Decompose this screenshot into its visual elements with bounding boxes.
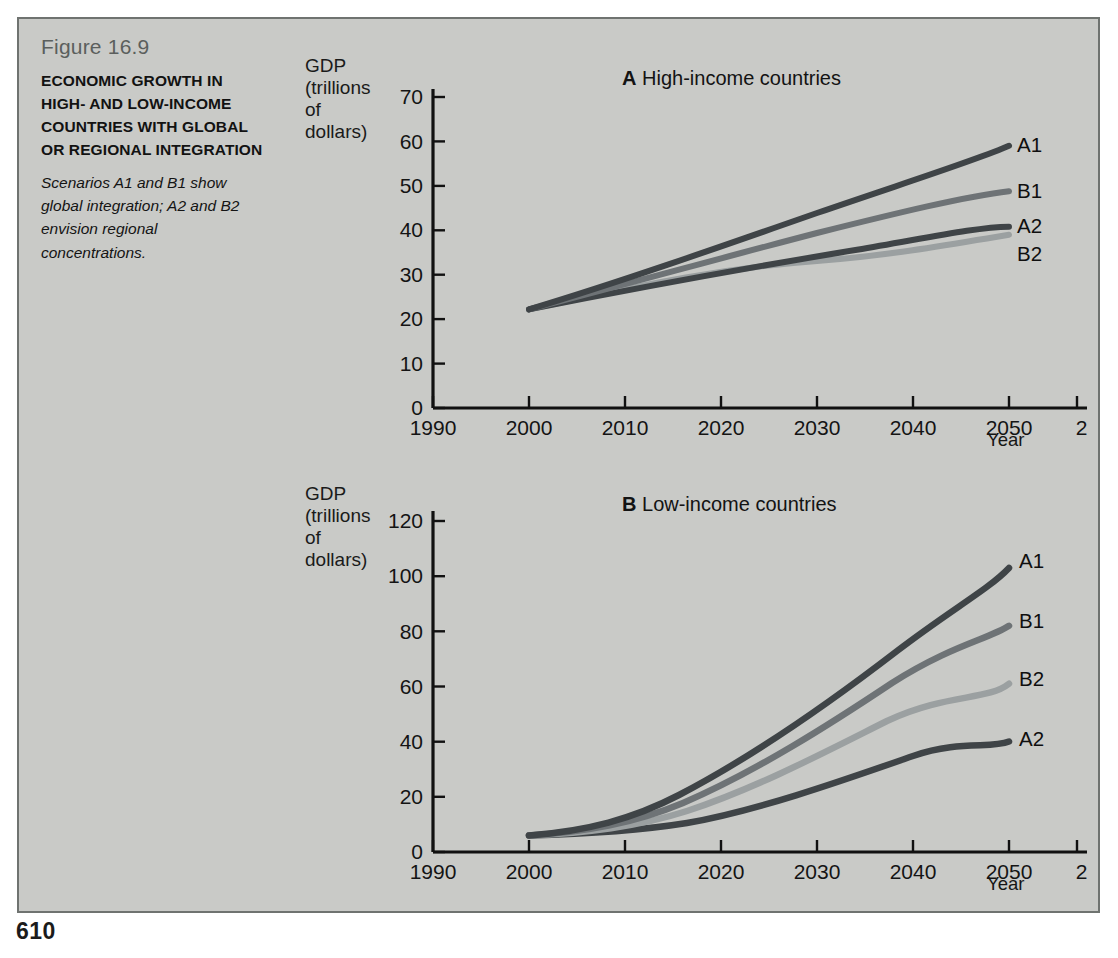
svg-text:40: 40: [400, 730, 423, 753]
series-line-A1-a: [529, 146, 1009, 310]
chart-panel-a: GDP (trillions of dollars) A High-income…: [287, 37, 1087, 457]
y-ticks-b: [433, 521, 445, 852]
x-axis-label-b: Year: [987, 873, 1024, 895]
svg-text:70: 70: [400, 85, 423, 108]
svg-text:20: 20: [400, 307, 423, 330]
series-label-b2-panel-a: B2: [1017, 242, 1042, 266]
series-label-a1-panel-b: A1: [1019, 549, 1044, 573]
y-axis-label-b: GDP (trillions of dollars): [305, 483, 370, 571]
chart-title-a: A High-income countries: [622, 67, 841, 90]
svg-text:2020: 2020: [698, 416, 745, 439]
panel-title-text-a: High-income countries: [642, 67, 841, 89]
svg-text:1990: 1990: [410, 416, 457, 439]
axis-lines-b: [433, 511, 1087, 852]
svg-text:2000: 2000: [506, 416, 553, 439]
figure-title: ECONOMIC GROWTH IN HIGH- AND LOW-INCOME …: [41, 70, 266, 162]
figure-number: Figure 16.9: [41, 35, 266, 59]
x-tick-labels-a: 1990 2000 2010 2020 2030 2040 2050 2060: [410, 416, 1087, 439]
svg-text:2060: 2060: [1076, 416, 1087, 439]
page-number: 610: [16, 918, 56, 945]
svg-text:100: 100: [388, 564, 423, 587]
x-tick-labels-b: 1990 2000 2010 2020 2030 2040 2050 2060: [410, 860, 1087, 883]
panel-title-text-b: Low-income countries: [642, 493, 837, 515]
series-label-a2-panel-a: A2: [1017, 214, 1042, 238]
x-ticks-b: [433, 840, 1077, 852]
svg-text:120: 120: [388, 509, 423, 532]
svg-text:20: 20: [400, 785, 423, 808]
chart-panel-b: GDP (trillions of dollars) B Low-income …: [287, 461, 1087, 901]
svg-text:2060: 2060: [1076, 860, 1087, 883]
y-ticks-a: [433, 97, 445, 408]
svg-text:2010: 2010: [602, 860, 649, 883]
svg-text:1990: 1990: [410, 860, 457, 883]
svg-text:80: 80: [400, 620, 423, 643]
svg-text:2040: 2040: [890, 860, 937, 883]
y-tick-labels-a: 0 10 20 30 40 50 60 70: [400, 85, 423, 419]
svg-text:2020: 2020: [698, 860, 745, 883]
x-axis-label-a: Year: [987, 429, 1024, 451]
series-label-b1-panel-b: B1: [1019, 609, 1044, 633]
y-axis-label-a: GDP (trillions of dollars): [305, 55, 370, 143]
svg-text:10: 10: [400, 352, 423, 375]
chart-svg-a: 0 10 20 30 40 50 60 70 1990 2000 2010 20…: [287, 37, 1087, 457]
svg-text:2040: 2040: [890, 416, 937, 439]
figure-description: Scenarios A1 and B1 show global integrat…: [41, 171, 266, 264]
panel-letter-a: A: [622, 67, 636, 89]
series-label-a1-panel-a: A1: [1017, 133, 1042, 157]
svg-text:50: 50: [400, 174, 423, 197]
svg-text:60: 60: [400, 130, 423, 153]
svg-text:30: 30: [400, 263, 423, 286]
chart-svg-b: 0 20 40 60 80 100 120 1990 2000 2010 202…: [287, 461, 1087, 901]
x-ticks-a: [433, 396, 1077, 408]
figure-frame: Figure 16.9 ECONOMIC GROWTH IN HIGH- AND…: [17, 17, 1100, 913]
series-label-b2-panel-b: B2: [1019, 667, 1044, 691]
svg-text:2030: 2030: [794, 416, 841, 439]
svg-text:60: 60: [400, 675, 423, 698]
svg-text:40: 40: [400, 218, 423, 241]
series-line-B1-a: [529, 191, 1009, 309]
y-tick-labels-b: 0 20 40 60 80 100 120: [388, 509, 423, 863]
svg-text:2010: 2010: [602, 416, 649, 439]
figure-caption-column: Figure 16.9 ECONOMIC GROWTH IN HIGH- AND…: [41, 35, 266, 264]
svg-text:2000: 2000: [506, 860, 553, 883]
series-label-b1-panel-a: B1: [1017, 179, 1042, 203]
series-label-a2-panel-b: A2: [1019, 727, 1044, 751]
panel-letter-b: B: [622, 493, 636, 515]
chart-title-b: B Low-income countries: [622, 493, 837, 516]
svg-text:2030: 2030: [794, 860, 841, 883]
